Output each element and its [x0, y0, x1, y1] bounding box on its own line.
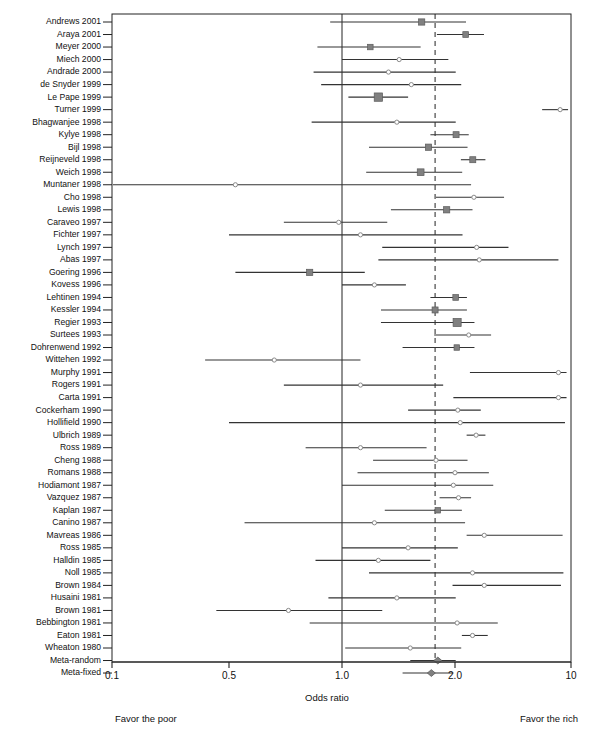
study-label: Meyer 2000 [56, 42, 101, 51]
point-estimate-marker [406, 546, 410, 550]
point-estimate-marker [474, 433, 478, 437]
point-estimate-marker [453, 295, 459, 301]
study-row [306, 446, 427, 450]
point-estimate-marker [358, 233, 362, 237]
point-estimate-marker [472, 195, 476, 199]
study-row [235, 269, 364, 275]
point-estimate-marker [337, 220, 341, 224]
point-estimate-marker [458, 421, 462, 425]
point-estimate-marker [470, 633, 474, 637]
point-estimate-marker [434, 458, 438, 462]
point-estimate-marker [482, 583, 486, 587]
study-label: Surtees 1993 [50, 330, 101, 339]
study-label: Bhagwanjee 1998 [32, 118, 101, 127]
study-label: de Snyder 1999 [40, 80, 101, 89]
study-label: Fichter 1997 [53, 230, 101, 239]
point-estimate-marker [455, 621, 459, 625]
pooled-estimate-marker [434, 657, 442, 664]
study-row [345, 646, 461, 650]
study-row [382, 245, 508, 249]
study-row [453, 396, 566, 400]
study-label: Lynch 1997 [57, 243, 101, 252]
study-label: Murphy 1991 [51, 368, 101, 377]
study-row [453, 583, 561, 587]
study-label: Meta-random [50, 656, 101, 665]
point-estimate-marker [386, 70, 390, 74]
study-label: Romans 1988 [47, 468, 101, 477]
study-label: Bijl 1998 [68, 143, 101, 152]
x-tick-label: 0.1 [100, 670, 124, 681]
study-label: Goering 1996 [49, 268, 101, 277]
x-tick-label: 0.5 [217, 670, 241, 681]
study-label: Bebbington 1981 [36, 618, 101, 627]
study-row [462, 633, 488, 637]
study-row [369, 571, 563, 575]
study-row [381, 307, 467, 313]
point-estimate-marker [556, 370, 560, 374]
study-row [461, 157, 486, 163]
study-label: Halldin 1985 [53, 556, 101, 565]
study-row [342, 546, 458, 550]
study-row [229, 233, 463, 237]
study-label: Rogers 1991 [52, 380, 101, 389]
study-row [342, 283, 406, 287]
point-estimate-marker [558, 108, 562, 112]
point-estimate-marker [425, 144, 431, 150]
point-estimate-marker [556, 396, 560, 400]
study-row [467, 433, 486, 437]
study-row [391, 207, 473, 213]
study-row [373, 458, 467, 462]
point-estimate-marker [358, 383, 362, 387]
point-estimate-marker [376, 558, 380, 562]
point-estimate-marker [374, 93, 382, 101]
study-label: Ulbrich 1989 [53, 431, 101, 440]
point-estimate-marker [372, 283, 376, 287]
study-row [542, 108, 568, 112]
point-estimate-marker [456, 408, 460, 412]
study-label: Muntaner 1998 [43, 180, 101, 189]
study-row [369, 144, 468, 150]
point-estimate-marker [453, 318, 461, 326]
x-tick-label: 2.0 [443, 670, 467, 681]
study-row [366, 169, 462, 176]
study-label: Araya 2001 [57, 30, 101, 39]
study-row [430, 132, 468, 138]
study-label: Lehtinen 1994 [47, 293, 101, 302]
study-row [284, 383, 443, 387]
point-estimate-marker [477, 258, 481, 262]
point-estimate-marker [372, 521, 376, 525]
point-estimate-marker [444, 207, 450, 213]
point-estimate-marker [307, 269, 313, 275]
study-row [113, 183, 471, 187]
point-estimate-marker [470, 571, 474, 575]
point-estimate-marker [467, 333, 471, 337]
study-label: Mavreas 1986 [47, 531, 101, 540]
point-estimate-marker [417, 169, 424, 176]
point-estimate-marker [432, 307, 438, 313]
x-tick-label: 10 [559, 670, 583, 681]
study-label: Wittehen 1992 [46, 355, 101, 364]
point-estimate-marker [368, 44, 373, 49]
study-row [437, 32, 484, 38]
pooled-estimate-marker [427, 670, 435, 677]
study-label: Lewis 1998 [58, 205, 101, 214]
study-row [310, 621, 498, 625]
study-label: Weich 1998 [56, 168, 101, 177]
point-estimate-marker [233, 183, 237, 187]
study-row [408, 408, 481, 412]
point-estimate-marker [395, 120, 399, 124]
study-label: Cheng 1988 [54, 456, 101, 465]
study-row [434, 333, 491, 337]
study-label: Noll 1985 [65, 568, 101, 577]
point-estimate-marker [463, 32, 469, 38]
point-estimate-marker [435, 508, 440, 513]
study-label: Hodiamont 1987 [38, 481, 101, 490]
study-label: Wheaton 1980 [45, 643, 101, 652]
study-row [470, 370, 567, 374]
point-estimate-marker [470, 157, 476, 163]
study-label: Brown 1984 [55, 581, 101, 590]
x-tick-label: 1.0 [330, 670, 354, 681]
study-row [317, 44, 420, 49]
point-estimate-marker [408, 646, 412, 650]
study-row [229, 421, 565, 425]
